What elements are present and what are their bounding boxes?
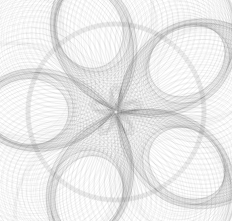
envelope-caustic-plot: [0, 0, 232, 221]
figure-root: Dense monochrome envelope of circles for…: [0, 0, 232, 221]
